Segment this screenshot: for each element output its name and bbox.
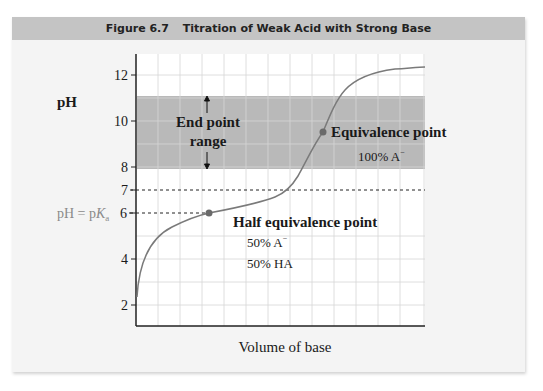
- half-detail-2: 50% HA: [247, 256, 293, 271]
- half-detail-1: 50% A−: [247, 234, 288, 250]
- equivalence-detail-text: 100% A: [358, 149, 401, 164]
- ytick-4: 4: [121, 252, 128, 267]
- end-point-label-line1: End point: [176, 114, 240, 130]
- ytick-12: 12: [114, 68, 128, 83]
- ytick-7: 7: [121, 183, 128, 198]
- equivalence-detail-sup: −: [400, 148, 405, 157]
- end-point-label-line2: range: [190, 133, 227, 149]
- y-axis-label: pH: [57, 94, 77, 110]
- equivalence-dot: [320, 129, 327, 136]
- ytick-10: 10: [114, 114, 128, 129]
- equivalence-point-label: Equivalence point: [331, 124, 446, 140]
- pka-label-sub: a: [105, 213, 109, 223]
- half-equivalence-dot: [206, 210, 213, 217]
- ytick-6: 6: [120, 206, 127, 221]
- pka-label-prefix: pH = p: [57, 206, 96, 221]
- x-axis-label: Volume of base: [238, 339, 331, 355]
- pka-label-k: K: [95, 206, 106, 221]
- equivalence-detail: 100% A−: [358, 148, 405, 164]
- y-tick-labels: 12 10 8 7 6 4 2: [114, 68, 128, 313]
- half-detail-1-sup: −: [283, 234, 288, 243]
- half-equivalence-label: Half equivalence point: [233, 214, 377, 230]
- pka-label: pH = pKa: [57, 206, 109, 223]
- ytick-2: 2: [121, 298, 128, 313]
- ytick-8: 8: [121, 160, 128, 175]
- half-detail-1-text: 50% A: [247, 235, 283, 250]
- titration-chart: 12 10 8 7 6 4 2 pH = pKa pH Volume of ba…: [0, 0, 543, 391]
